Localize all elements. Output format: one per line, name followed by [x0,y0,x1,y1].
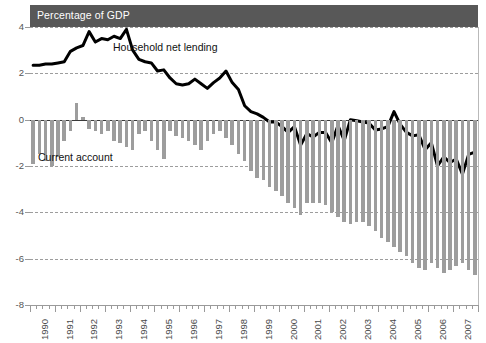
bar-current-account [94,120,98,132]
x-tick-minor [123,306,124,309]
bar-current-account [81,117,85,119]
y-tick-label: -2 [4,160,24,171]
x-tick-minor [322,306,323,309]
bar-current-account [430,120,434,264]
x-tick-minor [273,306,274,309]
bar-current-account [423,120,427,271]
x-tick-minor [198,306,199,309]
page-title: Percentage of GDP [37,9,130,21]
y-tick-mark [25,259,30,260]
y-tick-label: 2 [4,67,24,78]
x-tick-minor [74,306,75,309]
x-tick-major [204,306,205,312]
bar-current-account [336,120,340,217]
y-tick-label: -8 [4,299,24,310]
x-tick-major [154,306,155,312]
y-tick-mark [25,27,30,28]
x-tick-minor [459,306,460,309]
bar-current-account [311,120,315,203]
bar-current-account [31,120,35,164]
household-net-lending-label: Household net lending [113,41,218,53]
bar-current-account [212,120,216,134]
bar-current-account [206,120,210,141]
bar-current-account [75,103,79,119]
x-tick-label: 1993 [113,319,124,340]
x-tick-minor [217,306,218,309]
plot-area [30,27,479,305]
x-tick-minor [173,306,174,309]
x-tick-minor [422,306,423,309]
bar-current-account [398,120,402,252]
bar-current-account [262,120,266,180]
x-tick-minor [316,306,317,309]
x-tick-minor [291,306,292,309]
x-tick-major [279,306,280,312]
x-tick-minor [335,306,336,309]
bar-current-account [249,120,253,171]
x-tick-label: 1991 [64,319,75,340]
x-tick-minor [266,306,267,309]
x-tick-major [229,306,230,312]
x-tick-minor [242,306,243,309]
bar-current-account [224,120,228,139]
bar-current-account [417,120,421,268]
bar-current-account [143,120,147,132]
bar-current-account [237,120,241,155]
bar-current-account [318,120,322,203]
x-tick-minor [136,306,137,309]
x-tick-minor [49,306,50,309]
bar-current-account [386,120,390,243]
y-tick-label: -6 [4,253,24,264]
x-tick-minor [372,306,373,309]
bar-current-account [280,120,284,196]
y-tick-label: 4 [4,21,24,32]
x-tick-major [403,306,404,312]
x-tick-minor [360,306,361,309]
x-tick-major [304,306,305,312]
x-tick-minor [248,306,249,309]
x-tick-label: 1994 [138,319,149,340]
bar-current-account [87,120,91,129]
bar-current-account [69,120,73,132]
bar-current-account [193,120,197,145]
x-tick-major [55,306,56,312]
bar-current-account [137,120,141,134]
x-tick-minor [410,306,411,309]
y-tick-mark [25,212,30,213]
bar-current-account [436,120,440,268]
bar-current-account [255,120,259,178]
x-tick-minor [260,306,261,309]
x-tick-minor [416,306,417,309]
x-tick-label: 2000 [288,319,299,340]
y-tick-label: 0 [4,114,24,125]
bar-current-account [367,120,371,227]
x-tick-minor [223,306,224,309]
x-tick-major [254,306,255,312]
bar-current-account [100,120,104,134]
bar-current-account [374,120,378,231]
x-tick-minor [42,306,43,309]
x-tick-minor [366,306,367,309]
x-tick-label: 1996 [188,319,199,340]
bar-current-account [349,120,353,224]
bar-current-account [330,120,334,213]
x-tick-minor [61,306,62,309]
x-tick-label: 1997 [213,319,224,340]
x-tick-label: 2002 [337,319,348,340]
x-tick-minor [192,306,193,309]
x-tick-minor [117,306,118,309]
x-tick-minor [298,306,299,309]
bar-current-account [380,120,384,238]
bar-current-account [118,120,122,143]
bar-current-account [299,120,303,215]
x-tick-minor [385,306,386,309]
x-tick-label: 1990 [39,319,50,340]
bar-current-account [268,120,272,187]
x-tick-label: 1999 [263,319,274,340]
x-tick-label: 1998 [238,319,249,340]
bar-current-account [131,120,135,150]
bar-current-account [38,120,42,155]
x-tick-minor [186,306,187,309]
x-tick-major [105,306,106,312]
bar-current-account [150,120,154,141]
